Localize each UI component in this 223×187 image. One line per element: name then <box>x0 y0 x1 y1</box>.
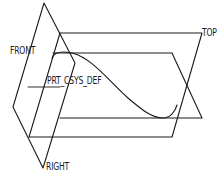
top-plane-label[interactable]: TOP <box>202 28 217 38</box>
front-plane-label[interactable]: FRONT <box>10 46 35 56</box>
datum-planes-graphic <box>0 0 223 187</box>
right-plane-label[interactable]: RIGHT <box>46 162 69 172</box>
diagram-canvas: FRONT TOP RIGHT PRT_CSYS_DEF <box>0 0 223 187</box>
csys-label[interactable]: PRT_CSYS_DEF <box>47 76 101 86</box>
